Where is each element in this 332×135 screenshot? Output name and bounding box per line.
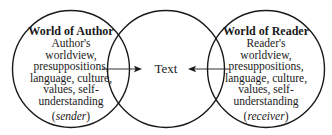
author-role: (sender): [21, 111, 121, 123]
arrowhead-left-icon: [188, 66, 196, 72]
text-label: Text: [150, 61, 182, 77]
author-line: understanding: [21, 96, 121, 108]
reader-line: Reader's: [216, 38, 316, 50]
reader-world-text: World of Reader Reader's worldview, pres…: [216, 25, 316, 122]
author-line: Author's: [21, 38, 121, 50]
reader-role: (receiver): [216, 111, 316, 123]
author-world-text: World of Author Author's worldview, pres…: [21, 25, 121, 122]
reader-role-label: receiver: [247, 110, 284, 122]
reader-line: understanding: [216, 96, 316, 108]
author-role-label: sender: [56, 110, 87, 122]
